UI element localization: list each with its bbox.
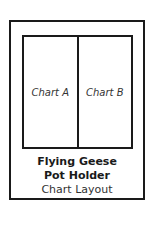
chart-b-panel: Chart B [79, 37, 132, 147]
caption-title-line1: Flying Geese [9, 155, 145, 169]
chart-b-label: Chart B [86, 87, 124, 98]
caption-subtitle: Chart Layout [9, 183, 145, 197]
chart-layout-grid: Chart A Chart B [22, 35, 133, 149]
caption: Flying Geese Pot Holder Chart Layout [9, 155, 145, 197]
caption-title-line2: Pot Holder [9, 169, 145, 183]
chart-a-label: Chart A [32, 87, 70, 98]
chart-a-panel: Chart A [24, 37, 79, 147]
